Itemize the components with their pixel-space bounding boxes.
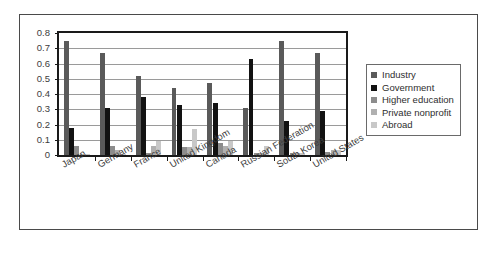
bar	[259, 153, 264, 155]
bar	[172, 88, 177, 155]
y-axis-tick	[55, 48, 59, 49]
legend-label: Abroad	[382, 120, 413, 130]
bar	[279, 41, 284, 155]
bar	[182, 147, 187, 155]
x-axis-tick	[238, 157, 239, 161]
y-axis-tick	[55, 140, 59, 141]
bar	[295, 153, 300, 155]
bar	[284, 121, 289, 155]
bar	[80, 154, 85, 155]
bar	[110, 146, 115, 155]
y-axis-tick-label: 0.8	[37, 28, 50, 38]
y-axis-tick-label: 0.1	[37, 135, 50, 145]
bar	[121, 154, 126, 155]
legend-swatch-abroad-icon	[371, 122, 377, 128]
legend-label: Industry	[382, 70, 416, 80]
bar	[290, 153, 295, 155]
y-axis-tick-label: 0.2	[37, 120, 50, 130]
bar	[115, 150, 120, 155]
legend-swatch-private-nonprofit-icon	[371, 109, 377, 115]
bar	[213, 103, 218, 155]
bars-layer	[59, 33, 346, 155]
legend-item: Government	[371, 81, 454, 93]
bar	[264, 146, 269, 155]
legend-item: Higher education	[371, 94, 454, 106]
bar	[74, 146, 79, 155]
x-axis-tick	[274, 157, 275, 161]
bar	[141, 97, 146, 155]
x-axis-tick	[95, 157, 96, 161]
bar	[177, 105, 182, 155]
bar	[151, 146, 156, 155]
y-axis-tick-label: 0.5	[37, 74, 50, 84]
x-axis-tick	[310, 157, 311, 161]
y-axis-tick-label: 0.3	[37, 105, 50, 115]
y-axis-tick-label: 0.7	[37, 44, 50, 54]
legend-swatch-higher-education-icon	[371, 97, 377, 103]
bar	[249, 59, 254, 155]
legend-swatch-industry-icon	[371, 72, 377, 78]
y-axis-tick	[55, 125, 59, 126]
bar	[100, 53, 105, 155]
bar	[336, 150, 341, 155]
y-axis-labels: 00.10.20.30.40.50.60.70.8	[24, 31, 54, 157]
bar	[254, 153, 259, 155]
legend-swatch-government-icon	[371, 85, 377, 91]
bar	[207, 83, 212, 155]
y-axis-tick	[55, 64, 59, 65]
legend-label: Higher education	[382, 95, 454, 105]
x-axis-tick	[203, 157, 204, 161]
y-axis-tick-label: 0	[45, 150, 50, 160]
bar	[315, 53, 320, 155]
y-axis-tick	[55, 33, 59, 34]
bar	[331, 150, 336, 155]
bar	[320, 111, 325, 155]
bar	[218, 143, 223, 155]
bar	[300, 153, 305, 155]
legend-item: Industry	[371, 69, 454, 81]
y-axis-tick	[55, 94, 59, 95]
x-axis-tick	[346, 157, 347, 161]
chart-figure: 00.10.20.30.40.50.60.70.8 JapanGermanyFr…	[0, 0, 497, 257]
plot-area	[57, 31, 348, 157]
legend-item: Abroad	[371, 119, 454, 131]
legend-item: Private nonprofit	[371, 106, 454, 118]
bar	[156, 141, 161, 155]
y-axis-tick	[55, 79, 59, 80]
y-axis-tick-label: 0.6	[37, 59, 50, 69]
bar	[105, 108, 110, 155]
y-axis-tick	[55, 109, 59, 110]
bar	[223, 146, 228, 155]
legend-label: Private nonprofit	[382, 108, 451, 118]
chart-legend: Industry Government Higher education Pri…	[366, 64, 461, 136]
legend-label: Government	[382, 83, 434, 93]
y-axis-tick-label: 0.4	[37, 89, 50, 99]
bar	[192, 129, 197, 155]
bar	[85, 154, 90, 155]
bar	[325, 152, 330, 155]
bar	[64, 41, 69, 155]
bar	[187, 147, 192, 155]
bar	[228, 141, 233, 155]
bar	[69, 128, 74, 155]
x-axis-tick	[131, 157, 132, 161]
y-axis-tick	[55, 155, 59, 156]
bar	[243, 108, 248, 155]
bar	[146, 153, 151, 155]
bar	[136, 76, 141, 155]
x-axis-tick	[167, 157, 168, 161]
